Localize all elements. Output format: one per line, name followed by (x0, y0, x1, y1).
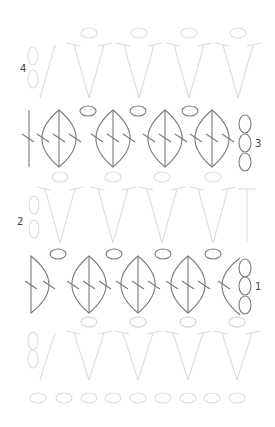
foundation-chain-oval (155, 393, 171, 403)
chain-oval (155, 249, 171, 259)
v-stitch-right (238, 45, 253, 98)
v-stitch-left (173, 333, 188, 380)
v-stitch-right (89, 333, 104, 380)
leaf-slash (198, 281, 210, 289)
chain-oval (205, 249, 221, 259)
half-leaf-cluster (222, 258, 240, 315)
crossbar (90, 187, 104, 190)
turning-chain-oval (239, 134, 251, 152)
v-stitch-right (162, 189, 177, 243)
crochet-chart: 4321 (0, 0, 275, 427)
foundation-chain-oval (180, 393, 196, 403)
leaf-slash (218, 281, 230, 289)
crossbar (98, 331, 112, 334)
turning-chain-oval (28, 350, 38, 368)
v-stitch-left (45, 189, 60, 243)
crossbar (165, 331, 179, 334)
crossbar (139, 187, 153, 190)
chain-oval (181, 28, 197, 38)
row-label-4: 4 (20, 63, 26, 74)
v-stitch-right (138, 333, 153, 380)
turning-chain-oval (239, 277, 251, 295)
edge-stitch (40, 45, 55, 98)
chain-oval (230, 28, 246, 38)
crossbar (171, 187, 185, 190)
foundation-chain-oval (204, 393, 220, 403)
v-stitch-right (60, 189, 75, 243)
v-stitch-left (124, 45, 139, 98)
v-stitch-right (113, 189, 128, 243)
half-leaf-cluster (31, 256, 49, 313)
foundation-chain-oval (81, 393, 97, 403)
crossbar (122, 187, 136, 190)
foundation-chain-oval (56, 393, 72, 403)
leaf-slash (148, 281, 160, 289)
crossbar (198, 43, 212, 46)
foundation-chain-oval (130, 393, 146, 403)
turning-chain-oval (239, 296, 251, 314)
chain-oval (154, 172, 170, 182)
turning-chain-oval (29, 196, 39, 214)
row-label-2: 2 (17, 216, 23, 227)
crossbar (166, 43, 180, 46)
v-stitch-right (139, 45, 154, 98)
chain-oval (130, 106, 146, 116)
chain-oval (81, 28, 97, 38)
turning-chain-oval (239, 153, 251, 171)
foundation-chain-oval (229, 393, 245, 403)
leaf-slash (222, 134, 234, 142)
crossbar (197, 331, 211, 334)
chain-oval (106, 249, 122, 259)
v-stitch-right (188, 333, 203, 380)
leaf-slash (37, 134, 49, 142)
crossbar (66, 43, 80, 46)
turning-chain-oval (28, 70, 38, 88)
row-label-3: 3 (255, 138, 261, 149)
v-stitch-left (222, 333, 237, 380)
chain-oval (205, 172, 221, 182)
crossbar (115, 331, 129, 334)
v-stitch-left (223, 45, 238, 98)
turning-chain-oval (239, 115, 251, 133)
chain-oval (105, 172, 121, 182)
active-stitches (22, 106, 251, 315)
chain-oval (182, 106, 198, 116)
leaf-slash (22, 134, 34, 142)
leaf-slash (99, 281, 111, 289)
turning-chain-oval (29, 220, 39, 238)
v-stitch-left (123, 333, 138, 380)
crossbar (214, 331, 228, 334)
crossbar (246, 331, 260, 334)
v-stitch-right (89, 45, 104, 98)
row-label-1: 1 (255, 281, 261, 292)
leaf-slash (91, 134, 103, 142)
crossbar (190, 187, 204, 190)
v-stitch-left (147, 189, 162, 243)
turning-chain-oval (239, 259, 251, 277)
v-stitch-right (213, 189, 228, 243)
chain-oval (50, 249, 66, 259)
v-stitch-left (98, 189, 113, 243)
foundation-chain-oval (30, 393, 46, 403)
leaf-slash (67, 281, 79, 289)
v-stitch-right (189, 45, 204, 98)
chain-oval (131, 28, 147, 38)
chain-oval (52, 172, 68, 182)
chain-oval (81, 317, 97, 327)
leaf-slash (69, 134, 81, 142)
crossbar (66, 331, 80, 334)
crossbar (147, 331, 161, 334)
turning-chain-oval (28, 332, 38, 350)
leaf-slash (166, 281, 178, 289)
v-stitch-left (198, 189, 213, 243)
crossbar (215, 43, 229, 46)
leaf-slash (190, 134, 202, 142)
crossbar (222, 187, 236, 190)
turning-chain-oval (28, 47, 38, 65)
v-stitch-left (174, 45, 189, 98)
leaf-slash (123, 134, 135, 142)
crossbar (148, 43, 162, 46)
leaf-slash (143, 134, 155, 142)
chain-oval (180, 317, 196, 327)
crossbar (98, 43, 112, 46)
